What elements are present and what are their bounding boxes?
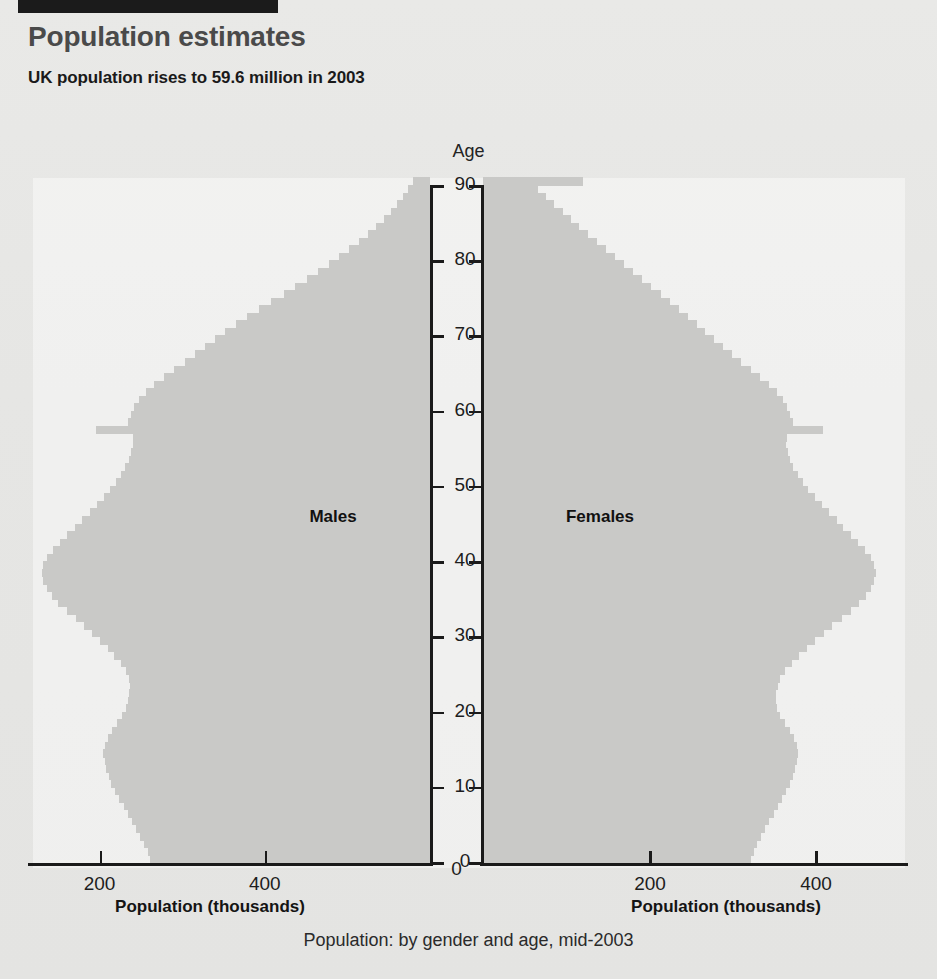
bar-female-age-59 [483,411,790,420]
bar-female-age-64 [483,373,760,382]
bar-female-age-87 [483,200,554,209]
y-tick-label-10: 10 [443,775,487,797]
x-tick-label-zero: 0 [417,858,497,880]
bar-female-age-73 [483,305,679,314]
bar-female-age-69 [483,335,714,344]
x-tick-label-left-400: 200 [60,873,140,895]
bar-female-age-4 [483,824,765,833]
bar-female-age-3 [483,832,761,841]
bar-female-age-36 [483,584,871,593]
bar-female-age-65 [483,366,751,375]
bar-female-age-33 [483,606,851,615]
bar-female-age-85 [483,215,571,224]
bar-female-age-5 [483,817,769,826]
bar-female-age-35 [483,591,866,600]
bar-female-age-77 [483,275,642,284]
bar-female-age-90 [483,177,583,186]
y-tick-label-80: 80 [443,248,487,270]
bar-female-age-17 [483,727,790,736]
bar-female-age-58 [483,418,793,427]
bar-female-age-32 [483,614,842,623]
population-pyramid-chart: 01020304050607080904002002004000 [0,0,937,979]
bar-female-age-29 [483,636,815,645]
bar-female-age-39 [483,561,874,570]
bar-female-age-43 [483,531,851,540]
bar-female-age-57 [483,426,823,435]
bar-female-age-79 [483,260,624,269]
bar-female-age-6 [483,809,774,818]
x-tick-right-400 [815,851,818,863]
bar-female-age-2 [483,839,757,848]
y-tick-label-90: 90 [443,173,487,195]
series-label-males: Males [253,507,413,527]
x-axis-line-right [480,863,908,866]
bar-female-age-71 [483,320,697,329]
y-axis-line-left [430,185,433,864]
bar-female-age-84 [483,223,579,232]
bar-female-age-15 [483,742,797,751]
bar-female-age-8 [483,794,782,803]
y-tick-label-50: 50 [443,474,487,496]
bar-female-age-24 [483,674,780,683]
bar-female-age-25 [483,666,785,675]
bar-female-age-75 [483,290,661,299]
bar-female-age-78 [483,268,633,277]
bar-female-age-21 [483,697,776,706]
bar-female-age-16 [483,734,794,743]
bar-female-age-60 [483,403,787,412]
bar-female-age-56 [483,433,787,442]
bar-female-age-7 [483,802,778,811]
x-tick-left-200 [265,851,268,863]
bar-female-age-37 [483,576,874,585]
bar-female-age-13 [483,757,797,766]
bar-female-age-82 [483,238,597,247]
bar-female-age-26 [483,659,792,668]
bar-female-age-88 [483,193,546,202]
bar-female-age-62 [483,388,777,397]
bar-female-age-0 [483,854,751,863]
bar-female-age-86 [483,208,563,217]
bar-female-age-19 [483,712,780,721]
y-tick-label-60: 60 [443,399,487,421]
bar-female-age-53 [483,456,790,465]
bar-female-age-80 [483,253,615,262]
bar-female-age-10 [483,779,790,788]
bar-female-age-66 [483,358,741,367]
x-tick-label-right-200: 200 [610,873,690,895]
bar-female-age-83 [483,230,588,239]
chart-caption: Population: by gender and age, mid-2003 [0,930,937,951]
bar-female-age-81 [483,245,606,254]
bar-female-age-9 [483,787,786,796]
bar-female-age-61 [483,396,783,405]
bar-female-age-54 [483,448,788,457]
bar-female-age-55 [483,441,786,450]
series-label-females: Females [520,507,680,527]
bar-female-age-1 [483,847,754,856]
x-tick-right-200 [649,851,652,863]
bar-female-age-76 [483,283,651,292]
bar-female-age-28 [483,644,807,653]
bar-female-age-34 [483,599,859,608]
bar-female-age-12 [483,764,795,773]
bar-female-age-72 [483,313,688,322]
y-tick-label-30: 30 [443,624,487,646]
bar-female-age-48 [483,493,815,502]
bar-female-age-70 [483,328,705,337]
bar-female-age-11 [483,772,793,781]
bar-female-age-23 [483,681,778,690]
x-axis-title-right: Population (thousands) [556,897,896,917]
bar-female-age-27 [483,651,799,660]
x-axis-line-left [28,863,433,866]
bar-female-age-18 [483,719,785,728]
bar-female-age-51 [483,471,798,480]
x-tick-left-400 [100,851,103,863]
y-tick-label-20: 20 [443,700,487,722]
bar-female-age-14 [483,749,798,758]
bar-female-age-30 [483,629,824,638]
x-axis-title-left: Population (thousands) [40,897,380,917]
bar-female-age-22 [483,689,776,698]
y-tick-label-70: 70 [443,323,487,345]
bar-female-age-31 [483,621,832,630]
bar-female-age-50 [483,478,803,487]
bar-female-age-20 [483,704,777,713]
